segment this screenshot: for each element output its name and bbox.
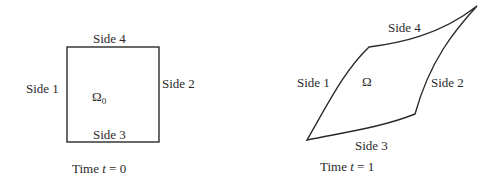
left-side3-label: Side 3 <box>93 127 126 142</box>
omega-0-label: Ω0 <box>92 89 107 106</box>
omega-label: Ω <box>362 74 372 89</box>
left-time-caption: Time t = 0 <box>72 161 126 176</box>
right-time-caption: Time t = 1 <box>320 159 374 174</box>
left-side1-label: Side 1 <box>26 81 59 96</box>
deformation-diagram: Side 4 Side 1 Side 2 Side 3 Ω0 Time t = … <box>0 0 494 184</box>
right-side4-label: Side 4 <box>388 20 421 35</box>
right-side1-label: Side 1 <box>297 75 330 90</box>
left-side4-label: Side 4 <box>93 31 126 46</box>
right-side2-label: Side 2 <box>431 75 464 90</box>
reference-domain: Side 4 Side 1 Side 2 Side 3 Ω0 Time t = … <box>26 31 195 176</box>
left-side2-label: Side 2 <box>162 76 195 91</box>
deformed-domain: Side 4 Side 1 Side 2 Side 3 Ω Time t = 1 <box>297 6 477 174</box>
right-side3-label: Side 3 <box>355 138 388 153</box>
